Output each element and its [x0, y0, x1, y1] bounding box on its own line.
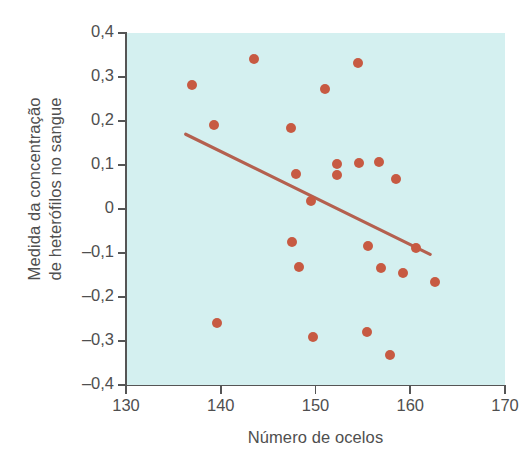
data-point [320, 84, 330, 94]
data-point [308, 332, 318, 342]
scatter-chart-figure: Medida da concentração de heterófilos no… [0, 0, 531, 468]
data-point [376, 263, 386, 273]
data-point [385, 350, 395, 360]
data-point [354, 158, 364, 168]
trend-line [0, 0, 531, 468]
x-axis-title: Número de ocelos [126, 428, 505, 447]
data-point [249, 54, 259, 64]
data-point [306, 196, 316, 206]
data-point [294, 262, 304, 272]
data-point [209, 120, 219, 130]
data-point [398, 268, 408, 278]
data-point [291, 169, 301, 179]
data-point [362, 327, 372, 337]
data-point [332, 159, 342, 169]
data-point [332, 170, 342, 180]
data-point [363, 241, 373, 251]
